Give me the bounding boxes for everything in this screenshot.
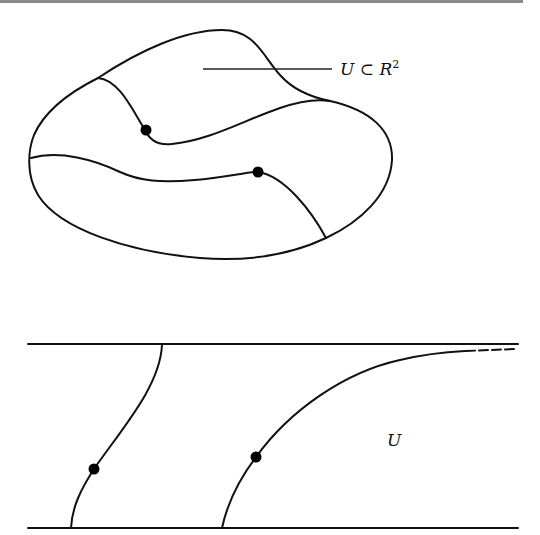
diagram-canvas: U ⊂ R2 U (0, 0, 540, 535)
upper-point (141, 125, 152, 136)
asymptote-dashes (466, 349, 514, 351)
right-point (251, 452, 262, 463)
figure-top: U ⊂ R2 (29, 30, 399, 259)
region-boundary (29, 30, 392, 259)
lower-point (253, 167, 264, 178)
left-point (89, 464, 100, 475)
region-label: U ⊂ R2 (340, 58, 399, 79)
right-curve (222, 351, 465, 528)
figure-bottom: U (28, 344, 518, 528)
region-label-U: U (387, 430, 402, 450)
left-curve (71, 345, 162, 528)
